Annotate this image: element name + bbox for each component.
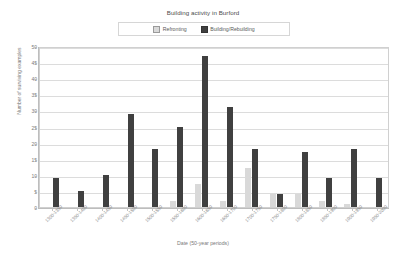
- x-label-cell: 1800-1850: [289, 209, 314, 239]
- bar: [351, 149, 357, 207]
- y-tick-mark: [35, 79, 37, 80]
- legend-label: Building/Rebuilding: [210, 26, 254, 32]
- bar-group: [338, 48, 363, 207]
- y-tick-mark: [35, 47, 37, 48]
- bar: [195, 184, 201, 207]
- bar: [245, 168, 251, 207]
- legend-swatch-icon: [201, 26, 208, 33]
- bar: [128, 114, 134, 207]
- y-tick-mark: [35, 95, 37, 96]
- bar-group: [164, 48, 189, 207]
- bar: [326, 178, 332, 207]
- bar: [202, 56, 208, 207]
- bar: [152, 149, 158, 207]
- bar-group: [40, 48, 65, 207]
- x-label-cell: 1550-1600: [164, 209, 189, 239]
- x-label-cell: 1750-1800: [264, 209, 289, 239]
- bar: [227, 107, 233, 207]
- y-tick-mark: [35, 128, 37, 129]
- y-tick-mark: [35, 160, 37, 161]
- y-tick-label: 20: [3, 141, 37, 147]
- bar: [376, 178, 382, 207]
- bar: [319, 201, 325, 207]
- x-label-cell: 1700-1750: [239, 209, 264, 239]
- y-tick-label: 5: [3, 189, 37, 195]
- x-label-cell: 1400-1450: [89, 209, 114, 239]
- y-tick-mark: [35, 192, 37, 193]
- chart-container: Building activity in Burford Refronting …: [0, 0, 406, 261]
- chart-legend: Refronting Building/Rebuilding: [118, 22, 290, 36]
- bar-group: [115, 48, 140, 207]
- bar-group: [214, 48, 239, 207]
- plot-area: [39, 47, 389, 208]
- legend-label: Refronting: [163, 26, 187, 32]
- x-label-cell: 1300-1350: [39, 209, 64, 239]
- legend-item-refronting: Refronting: [153, 26, 186, 33]
- x-axis-labels: 1300-13501350-14001400-14501450-15001500…: [39, 209, 389, 239]
- x-label-cell: 1950-2000: [364, 209, 389, 239]
- bar-group: [264, 48, 289, 207]
- bar: [344, 204, 350, 207]
- bar: [270, 194, 276, 207]
- bar: [170, 201, 176, 207]
- bar: [177, 127, 183, 208]
- bar: [295, 194, 301, 207]
- y-tick-mark: [35, 111, 37, 112]
- bar: [277, 194, 283, 207]
- bar: [53, 178, 59, 207]
- y-axis-title: Number of surviving examples: [16, 26, 22, 136]
- legend-item-building-rebuilding: Building/Rebuilding: [201, 26, 255, 33]
- y-tick-mark: [35, 176, 37, 177]
- bar: [220, 201, 226, 207]
- bar: [103, 175, 109, 207]
- x-label-cell: 1600-1650: [189, 209, 214, 239]
- chart-title: Building activity in Burford: [0, 9, 406, 16]
- bars-layer: [40, 48, 388, 207]
- x-label-cell: 1500-1550: [139, 209, 164, 239]
- y-tick-mark: [35, 63, 37, 64]
- x-label-cell: 1650-1700: [214, 209, 239, 239]
- bar-group: [189, 48, 214, 207]
- bar-group: [239, 48, 264, 207]
- x-label-cell: 1850-1900: [314, 209, 339, 239]
- bar-group: [289, 48, 314, 207]
- x-label-cell: 1900-1950: [339, 209, 364, 239]
- y-tick-label: 0: [3, 205, 37, 211]
- x-label-cell: 1350-1400: [64, 209, 89, 239]
- x-label-cell: 1450-1500: [114, 209, 139, 239]
- y-tick-label: 15: [3, 157, 37, 163]
- bar-group: [139, 48, 164, 207]
- bar-group: [313, 48, 338, 207]
- x-axis-title: Date (50-year periods): [0, 240, 406, 246]
- y-tick-mark: [35, 144, 37, 145]
- bar-group: [65, 48, 90, 207]
- y-tick-mark: [35, 208, 37, 209]
- bar: [302, 152, 308, 207]
- legend-swatch-icon: [153, 26, 160, 33]
- bar-group: [363, 48, 388, 207]
- y-tick-label: 10: [3, 173, 37, 179]
- bar-group: [90, 48, 115, 207]
- bar: [252, 149, 258, 207]
